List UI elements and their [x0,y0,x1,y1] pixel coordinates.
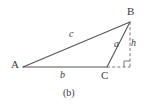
side-label-c: c [69,29,73,39]
vertex-label-C: C [101,70,108,81]
right-angle-marker-icon [124,61,130,67]
side-label-b: b [60,70,65,80]
geometry-figure: A B C c b a h (b) [0,0,153,108]
side-label-a: a [114,39,119,49]
altitude-label-h: h [131,38,136,48]
figure-caption: (b) [63,88,75,98]
vertex-label-A: A [11,59,19,70]
vertex-label-B: B [127,6,134,17]
